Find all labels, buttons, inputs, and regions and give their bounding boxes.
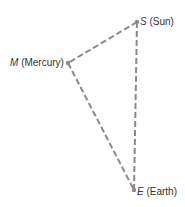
label-earth: E (Earth) [137, 186, 177, 198]
triangle-edges [68, 22, 137, 190]
label-earth-symbol: E [137, 186, 144, 197]
label-mercury-symbol: M [10, 57, 18, 68]
label-mercury-name: (Mercury) [21, 57, 64, 68]
label-sun: S (Sun) [140, 16, 174, 28]
triangle-diagram [0, 0, 185, 207]
vertex-S [135, 20, 139, 24]
label-sun-symbol: S [140, 16, 147, 27]
label-mercury: M (Mercury) [10, 57, 64, 69]
vertex-E [132, 188, 136, 192]
edge-S-E [134, 22, 137, 190]
edge-M-E [68, 63, 134, 190]
label-earth-name: (Earth) [146, 186, 177, 197]
edge-S-M [68, 22, 137, 63]
triangle-vertices [66, 20, 139, 192]
label-sun-name: (Sun) [149, 16, 173, 27]
vertex-M [66, 61, 70, 65]
